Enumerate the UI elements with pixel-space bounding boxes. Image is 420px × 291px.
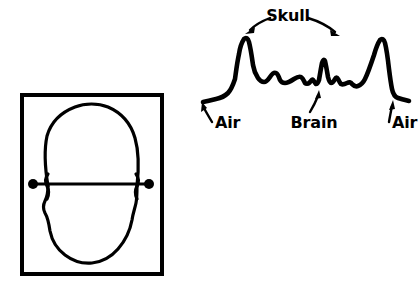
head-outline-jaw: [44, 186, 138, 263]
skull-label: Skull: [266, 6, 310, 25]
brain-arrow-icon: [315, 90, 321, 99]
transducer-marker-right: [144, 179, 154, 189]
head-outline-cranium: [45, 104, 138, 186]
transducer-marker-left: [28, 179, 38, 189]
waveform-trace: [203, 38, 409, 102]
brain-label: Brain: [291, 113, 338, 132]
head-scan-diagram: [22, 95, 162, 274]
figure-canvas: Skull Brain Air Air: [0, 0, 420, 291]
air-left-leader-line: [204, 108, 212, 122]
air-right-arrow-icon: [389, 100, 395, 110]
air-right-label: Air: [392, 113, 417, 132]
figure-root: Skull Brain Air Air: [0, 0, 420, 291]
echoencephalogram-trace: Skull Brain Air Air: [201, 6, 417, 132]
skull-leader-right-line: [308, 18, 335, 32]
air-left-label: Air: [215, 113, 240, 132]
